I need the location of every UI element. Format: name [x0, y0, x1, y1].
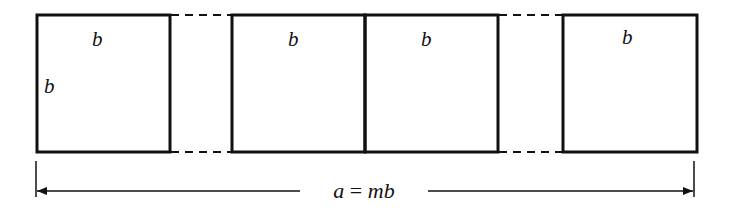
- square-1-top-label: b: [92, 27, 103, 51]
- square-1-side-label: b: [44, 74, 55, 98]
- square-1: b b: [37, 15, 170, 152]
- squares-diagram: b b b b b a = mb: [0, 0, 730, 216]
- square-4: b: [563, 15, 697, 152]
- square-4-top-label: b: [622, 25, 633, 49]
- square-2-top-label: b: [288, 27, 299, 51]
- dashed-gap-1: [171, 15, 231, 152]
- square-3: b: [365, 15, 498, 152]
- dimension-label: a = mb: [333, 178, 394, 203]
- dimension-line: a = mb: [36, 161, 694, 203]
- square-2: b: [232, 15, 365, 152]
- square-3-top-label: b: [421, 27, 432, 51]
- dashed-gap-2: [499, 15, 562, 152]
